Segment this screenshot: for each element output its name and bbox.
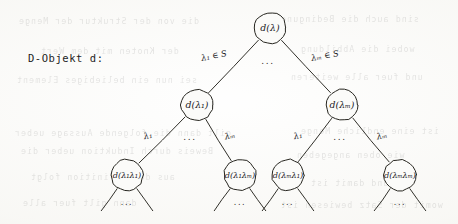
tree-edge-label: λₘ <box>375 130 388 142</box>
tree-branch-ellipsis: ... <box>183 132 196 142</box>
tree-node-label: d(λ₁) <box>185 99 208 110</box>
tree-diagram: ............ d(λ)d(λ₁)d(λₘ)d(λ₁λ₁)d(λ₁λₘ… <box>0 0 458 224</box>
tree-edge-label: λ₁ ∈ S <box>199 48 228 63</box>
tree-leaf-ellipsis: ... <box>282 198 294 207</box>
tree-leaf-stub <box>214 189 230 211</box>
tree-leaf-stub <box>298 189 314 211</box>
tree-leaf-stub <box>410 189 426 211</box>
tree-edge-label: λ₁ <box>292 130 303 142</box>
tree-node-label: d(λₘλₘ) <box>384 170 416 180</box>
tree-leaf-ellipsis: ... <box>234 198 246 207</box>
tree-leaf-stubs-group: ............ <box>101 189 425 211</box>
tree-edge <box>209 40 259 92</box>
tree-edge-label: λₘ <box>223 130 236 142</box>
tree-node-label: d(λ) <box>260 22 280 33</box>
tree-branch-ellipsis: ... <box>261 56 274 66</box>
tree-node-label: d(λₘλ₁) <box>273 170 303 180</box>
tree-leaf-ellipsis: ... <box>121 198 133 207</box>
tree-nodes-group: d(λ)d(λ₁)d(λₘ)d(λ₁λ₁)d(λ₁λₘ)d(λₘλ₁)d(λₘλ… <box>111 13 417 191</box>
tree-leaf-stub <box>137 189 153 211</box>
scanned-page: die von der Struktur der Mengesind auch … <box>0 0 458 224</box>
tree-leaf-stub <box>262 189 278 211</box>
tree-leaf-stub <box>101 189 117 211</box>
tree-node-label: d(λₘ) <box>329 99 354 110</box>
tree-leaf-stub <box>374 189 390 211</box>
tree-node-label: d(λ₁λ₁) <box>113 170 142 180</box>
tree-leaf-stub <box>250 189 266 211</box>
tree-edge-label: λ₁ <box>142 130 153 142</box>
tree-node-label: d(λ₁λₘ) <box>225 170 255 180</box>
tree-edge <box>282 40 331 92</box>
tree-edge-label: λₘ ∈ S <box>309 48 339 63</box>
tree-leaf-ellipsis: ... <box>394 198 406 207</box>
tree-edge <box>298 118 331 161</box>
tree-branch-ellipsis: ... <box>333 132 346 142</box>
